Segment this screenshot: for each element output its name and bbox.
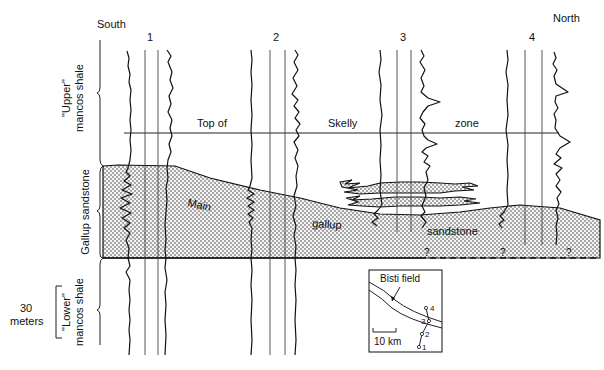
- inset-well-2: 2: [425, 330, 430, 339]
- direction-label-north: North: [553, 12, 580, 24]
- scale-bar-value: 30: [20, 302, 32, 314]
- lower-mancos-brace: [97, 258, 103, 345]
- datum-label-skelly: Skelly: [328, 117, 358, 129]
- direction-label-south: South: [97, 18, 126, 30]
- upper-mancos-brace: [97, 40, 103, 166]
- datum-label-top-of: Top of: [197, 117, 228, 129]
- question-mark-1: ?: [424, 247, 430, 258]
- svg-text:"Upper": "Upper": [60, 79, 72, 117]
- skelly-sandstone-tongue-upper: [340, 180, 478, 194]
- sandstone-label-sandstone: sandstone: [427, 225, 478, 237]
- unit-label-lower-mancos: "Lower" mancos shale: [60, 278, 85, 346]
- well-number-1: 1: [147, 31, 153, 43]
- svg-text:mancos shale: mancos shale: [73, 278, 85, 346]
- question-mark-3: ?: [566, 247, 572, 258]
- scale-bar-unit: meters: [10, 315, 44, 327]
- inset-location-map: Bisti field 4 3 2 1 10 km: [369, 270, 442, 352]
- question-mark-2: ?: [500, 247, 506, 258]
- unit-label-gallup-sandstone: Gallup sandstone: [79, 169, 91, 255]
- inset-scale-label: 10 km: [374, 336, 401, 347]
- well-number-2: 2: [273, 31, 279, 43]
- svg-text:"Lower": "Lower": [60, 293, 72, 331]
- svg-text:Gallup sandstone: Gallup sandstone: [79, 169, 91, 255]
- inset-well-1: 1: [422, 343, 427, 352]
- skelly-sandstone-tongue-lower: [346, 196, 480, 207]
- gallup-brace: [97, 166, 103, 258]
- inset-well-3: 3: [421, 317, 426, 326]
- sandstone-label-gallup: gallup: [312, 217, 342, 231]
- unit-label-upper-mancos: "Upper" mancos shale: [60, 64, 85, 132]
- inset-well-4: 4: [430, 304, 435, 313]
- well-number-3: 3: [400, 31, 406, 43]
- cross-section-diagram: South North 1 2 3 4 ? ? ? Top of Skelly …: [0, 0, 604, 370]
- datum-label-zone: zone: [455, 117, 479, 129]
- svg-text:mancos shale: mancos shale: [73, 64, 85, 132]
- inset-title-bisti-field: Bisti field: [380, 273, 420, 284]
- well-number-4: 4: [529, 31, 535, 43]
